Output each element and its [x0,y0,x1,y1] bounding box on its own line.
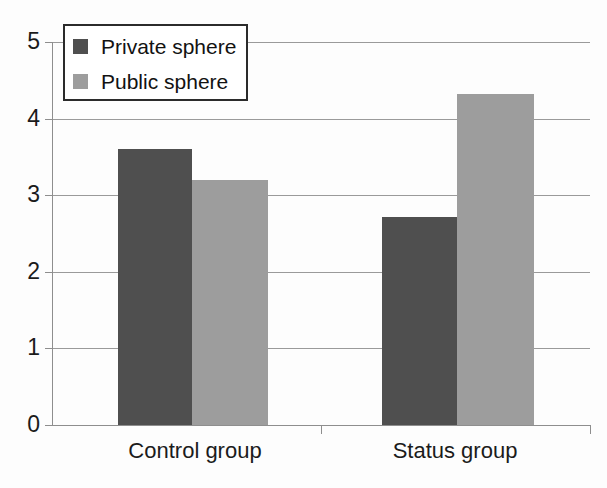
x-tick-end [590,425,591,434]
y-tick-2 [45,272,53,273]
y-tick-label-2: 2 [10,260,40,283]
x-category-label-status: Status group [370,438,540,464]
x-category-label-control: Control group [110,438,280,464]
y-tick-label-0: 0 [10,413,40,436]
y-axis-labels: 5 4 3 2 1 0 [0,0,40,488]
y-tick-0 [45,425,53,426]
legend-label-private: Private sphere [101,36,236,57]
legend-label-public: Public sphere [101,71,228,92]
y-tick-label-4: 4 [10,107,40,130]
y-tick-label-3: 3 [10,183,40,206]
bar-status-private [382,217,457,425]
legend-swatch-icon-private [73,39,88,54]
legend-item-public-sphere: Public sphere [73,66,228,96]
legend: Private sphere Public sphere [63,24,248,101]
legend-swatch-icon-public [73,74,88,89]
bar-control-public [192,180,268,425]
legend-item-private-sphere: Private sphere [73,31,236,61]
y-tick-5 [45,42,53,43]
bar-chart: 5 4 3 2 1 0 Control group Status group P… [0,0,607,488]
y-tick-label-1: 1 [10,336,40,359]
y-tick-label-5: 5 [10,30,40,53]
y-tick-4 [45,119,53,120]
y-tick-1 [45,348,53,349]
x-tick-boundary [321,425,322,434]
bar-control-private [118,149,192,425]
y-axis-line [52,42,53,426]
bar-status-public [457,94,534,425]
y-tick-3 [45,195,53,196]
